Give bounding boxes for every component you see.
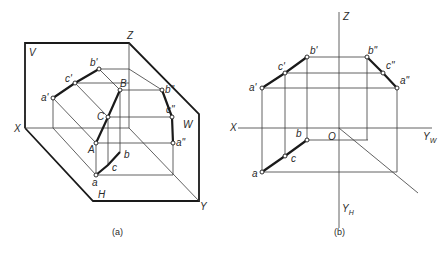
point-b xyxy=(305,138,309,142)
label-X: X xyxy=(13,123,21,134)
label-V: V xyxy=(29,47,37,58)
point-b-prime xyxy=(97,67,101,71)
label-c: c xyxy=(112,162,117,173)
caption-a: (a) xyxy=(112,227,123,237)
point-c xyxy=(283,154,287,158)
label-c-dprime: c" xyxy=(166,104,175,115)
label-c-prime: c' xyxy=(278,61,286,72)
point-b-prime xyxy=(305,55,309,59)
label-X: X xyxy=(229,122,237,133)
diagonal-45 xyxy=(339,128,418,193)
label-Z: Z xyxy=(342,11,350,22)
point-c-dprime xyxy=(170,115,174,119)
figure-b: Z X O YW YH a' c' b' b" c" a" a c b (b) xyxy=(229,11,438,237)
label-a-prime: a' xyxy=(249,82,258,93)
point-a-prime xyxy=(51,96,55,100)
label-B: B xyxy=(120,78,127,89)
point-a-dprime xyxy=(171,141,175,145)
label-b-prime: b' xyxy=(310,45,319,56)
proj-line xyxy=(53,98,96,143)
label-a-dprime: a" xyxy=(400,75,410,86)
label-Y-W: YW xyxy=(423,131,438,144)
caption-b: (b) xyxy=(334,227,345,237)
label-C: C xyxy=(97,111,105,122)
label-a: a xyxy=(252,168,258,179)
y-axis-line xyxy=(129,128,199,201)
label-c-prime: c' xyxy=(65,73,73,84)
label-c-dprime: c" xyxy=(386,60,395,71)
point-a-prime xyxy=(260,86,264,90)
projection-diagram: V W H Z X Y a' c' b' B C A b" c" a" a c … xyxy=(0,0,446,254)
proj-line xyxy=(99,69,120,90)
label-Y: Y xyxy=(200,201,208,212)
label-b-dprime: b" xyxy=(165,84,175,95)
label-H: H xyxy=(98,189,106,200)
label-b-dprime: b" xyxy=(368,45,378,56)
label-Y-H: YH xyxy=(342,203,355,216)
point-a-dprime xyxy=(395,86,399,90)
point-C xyxy=(106,115,110,119)
label-b: b xyxy=(296,128,302,139)
point-b-dprime xyxy=(160,88,164,92)
label-Z: Z xyxy=(126,30,134,41)
label-O: O xyxy=(328,131,336,142)
label-a: a xyxy=(92,177,98,188)
label-A: A xyxy=(87,144,95,155)
label-a-prime: a' xyxy=(41,92,50,103)
point-c-prime xyxy=(73,81,77,85)
label-c: c xyxy=(291,153,296,164)
label-a-dprime: a" xyxy=(176,137,186,148)
label-b: b xyxy=(124,149,130,160)
label-W: W xyxy=(183,119,194,130)
label-b-prime: b' xyxy=(90,57,99,68)
figure-a: V W H Z X Y a' c' b' B C A b" c" a" a c … xyxy=(13,30,208,237)
point-a xyxy=(260,170,264,174)
point-c-dprime xyxy=(381,71,385,75)
